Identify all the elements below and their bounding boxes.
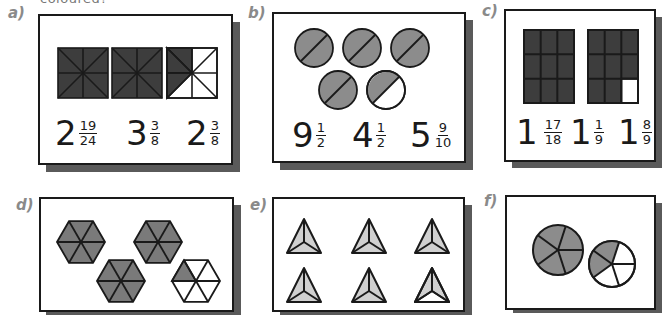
panel-c-label: c) <box>482 2 498 20</box>
whole-number: 1 <box>618 115 640 149</box>
option-a3[interactable]: 2 38 <box>186 116 220 150</box>
numerator: 9 <box>438 121 448 136</box>
option-b2[interactable]: 4 12 <box>352 118 386 152</box>
whole-number: 5 <box>410 118 432 152</box>
denominator: 9 <box>594 133 604 147</box>
numerator: 3 <box>210 119 220 134</box>
panel-a-label: a) <box>8 4 25 22</box>
numerator: 1 <box>316 121 326 136</box>
panel-d <box>39 197 234 312</box>
option-c1[interactable]: 1 1718 <box>516 115 562 149</box>
whole-number: 9 <box>292 118 314 152</box>
denominator: 8 <box>210 134 220 148</box>
numerator: 19 <box>79 119 98 134</box>
denominator: 9 <box>642 133 652 147</box>
denominator: 18 <box>544 133 563 147</box>
whole-number: 2 <box>55 116 77 150</box>
panel-e-label: e) <box>250 196 267 214</box>
panel-b: 9 12 4 12 5 910 <box>272 12 466 163</box>
panel-e-triangles <box>274 199 467 314</box>
panel-b-label: b) <box>248 4 266 22</box>
panel-d-hexagons <box>41 199 236 314</box>
numerator: 8 <box>642 118 652 133</box>
option-a2[interactable]: 3 38 <box>126 116 160 150</box>
option-b3[interactable]: 5 910 <box>410 118 452 152</box>
panel-d-label: d) <box>16 196 34 214</box>
panel-f-label: f) <box>484 192 497 210</box>
denominator: 24 <box>79 134 98 148</box>
denominator: 2 <box>376 136 386 150</box>
denominator: 8 <box>150 134 160 148</box>
panel-e <box>272 197 465 312</box>
option-c3[interactable]: 1 89 <box>618 115 652 149</box>
denominator: 2 <box>316 136 326 150</box>
denominator: 10 <box>434 136 453 150</box>
panel-c: 1 1718 1 19 1 89 <box>504 9 656 162</box>
whole-number: 4 <box>352 118 374 152</box>
whole-number: 1 <box>570 115 592 149</box>
instruction-text-cut: coloured? <box>40 0 108 6</box>
whole-number: 1 <box>516 115 538 149</box>
panel-f <box>505 195 656 310</box>
option-b1[interactable]: 9 12 <box>292 118 326 152</box>
numerator: 3 <box>150 119 160 134</box>
whole-number: 2 <box>186 116 208 150</box>
numerator: 1 <box>594 118 604 133</box>
option-a1[interactable]: 2 1924 <box>55 116 97 150</box>
panel-f-pies <box>507 197 658 312</box>
numerator: 17 <box>544 118 563 133</box>
numerator: 1 <box>376 121 386 136</box>
panel-a: 2 1924 3 38 2 38 <box>38 14 233 165</box>
whole-number: 3 <box>126 116 148 150</box>
option-c2[interactable]: 1 19 <box>570 115 604 149</box>
